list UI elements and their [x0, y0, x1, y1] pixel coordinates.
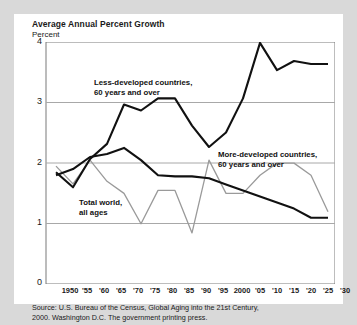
x-tick-1980: '80: [167, 286, 177, 295]
x-tick-2015: '15: [289, 286, 299, 295]
annotation-more-developed-line1: More-developed countries,: [218, 150, 317, 160]
x-tick-1965: '65: [116, 286, 126, 295]
annotation-total-world: Total world, all ages: [79, 198, 122, 218]
x-tick-2000: 2000: [234, 286, 251, 295]
annotation-more-developed-line2: 60 years and over: [218, 160, 317, 170]
x-tick-2030: '30: [340, 286, 350, 295]
source-note-line1: Source: U.S. Bureau of the Census, Globa…: [32, 303, 259, 313]
y-tick-3: 3: [30, 96, 42, 106]
y-tick-2: 2: [30, 157, 42, 167]
x-tick-1960: '60: [99, 286, 109, 295]
y-tick-4: 4: [30, 36, 42, 46]
x-tick-1995: '95: [218, 286, 228, 295]
annotation-total-world-line1: Total world,: [79, 198, 122, 208]
chart-title: Average Annual Percent Growth: [32, 19, 165, 29]
x-tick-1990: '90: [201, 286, 211, 295]
annotation-less-developed-line1: Less-developed countries,: [94, 78, 192, 88]
x-tick-1950: 1950: [62, 286, 79, 295]
y-tick-1: 1: [30, 217, 42, 227]
x-tick-2020: '20: [306, 286, 316, 295]
x-tick-2010: '10: [272, 286, 282, 295]
annotation-total-world-line2: all ages: [79, 208, 122, 218]
x-tick-1955: '55: [82, 286, 92, 295]
x-tick-2005: '05: [255, 286, 265, 295]
x-axis-ticks: 1950 '55 '60 '65 '70 '75 '80 '85 '90 '95…: [32, 286, 335, 298]
annotation-less-developed: Less-developed countries, 60 years and o…: [94, 78, 192, 98]
source-note: Source: U.S. Bureau of the Census, Globa…: [32, 303, 259, 322]
x-tick-1975: '75: [150, 286, 160, 295]
x-tick-1985: '85: [184, 286, 194, 295]
x-tick-2025: '25: [323, 286, 333, 295]
x-tick-1970: '70: [133, 286, 143, 295]
annotation-less-developed-line2: 60 years and over: [94, 88, 192, 98]
chart-figure: Average Annual Percent Growth Percent 4 …: [14, 14, 343, 304]
source-note-line2: 2000. Washington D.C. The government pri…: [32, 313, 259, 323]
annotation-more-developed: More-developed countries, 60 years and o…: [218, 150, 317, 170]
